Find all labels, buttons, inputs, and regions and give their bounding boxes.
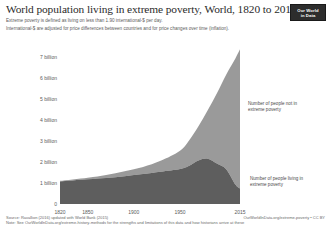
footer-left: Source: Ravallion (2016) updated with Wo… (6, 215, 244, 226)
chart-container: World population living in extreme pover… (0, 0, 329, 231)
annotation-not-in-poverty: Number of people not in extreme poverty (248, 101, 310, 112)
chart-subtitle-line-1: Extreme poverty is defined as living on … (6, 18, 292, 24)
logo-line-2: in Data (301, 13, 316, 18)
note-line: Note: See OurWorldInData.org/extreme-his… (6, 220, 244, 225)
annotation-in-poverty: Number of people living in extreme pover… (250, 176, 312, 187)
chart-subtitle-line-2: International-$ are adjusted for price d… (6, 26, 292, 32)
chart-header: World population living in extreme pover… (6, 3, 292, 32)
our-world-in-data-logo[interactable]: Our World in Data (290, 4, 326, 21)
chart-footer: Source: Ravallion (2016) updated with Wo… (0, 215, 329, 229)
credit-line[interactable]: OurWorldInData.org/extreme-poverty • CC … (243, 215, 325, 220)
page-title: World population living in extreme pover… (6, 3, 292, 16)
